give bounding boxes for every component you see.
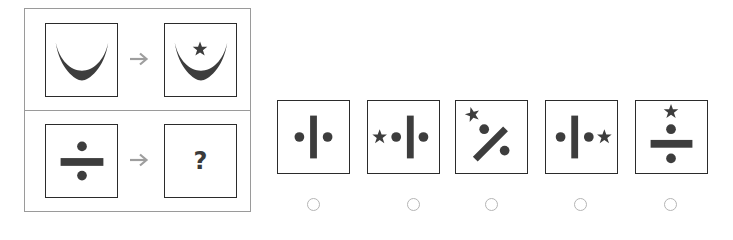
star-right-bar-dots-icon <box>546 101 617 173</box>
right-arrow-icon <box>129 52 149 66</box>
option-b-radio[interactable] <box>407 198 420 211</box>
question-target-box: ? <box>164 124 237 198</box>
star-icon <box>193 42 208 56</box>
puzzle-divider <box>24 110 251 111</box>
question-mark: ? <box>165 125 236 197</box>
star-icon <box>664 104 679 118</box>
example-source-box <box>45 23 118 97</box>
question-source-box <box>45 124 118 198</box>
crescent-with-star-icon <box>165 24 236 96</box>
star-icon <box>372 129 387 143</box>
crescent-icon <box>46 24 117 96</box>
right-arrow-icon <box>129 153 149 167</box>
star-icon <box>597 129 612 143</box>
example-target-box <box>164 23 237 97</box>
star-icon <box>463 105 481 122</box>
option-c-box[interactable] <box>455 100 528 174</box>
option-d-radio[interactable] <box>574 198 587 211</box>
option-b-box[interactable] <box>367 100 440 174</box>
option-a-box[interactable] <box>277 100 350 174</box>
option-e-radio[interactable] <box>664 198 677 211</box>
option-a-radio[interactable] <box>307 198 320 211</box>
option-d-box[interactable] <box>545 100 618 174</box>
option-e-box[interactable] <box>635 100 708 174</box>
division-with-star-icon <box>636 101 707 173</box>
percent-with-star-icon <box>456 101 527 173</box>
option-c-radio[interactable] <box>485 198 498 211</box>
star-left-bar-dots-icon <box>368 101 439 173</box>
vertical-bar-with-dots-icon <box>278 101 349 173</box>
division-sign-icon <box>46 125 117 197</box>
